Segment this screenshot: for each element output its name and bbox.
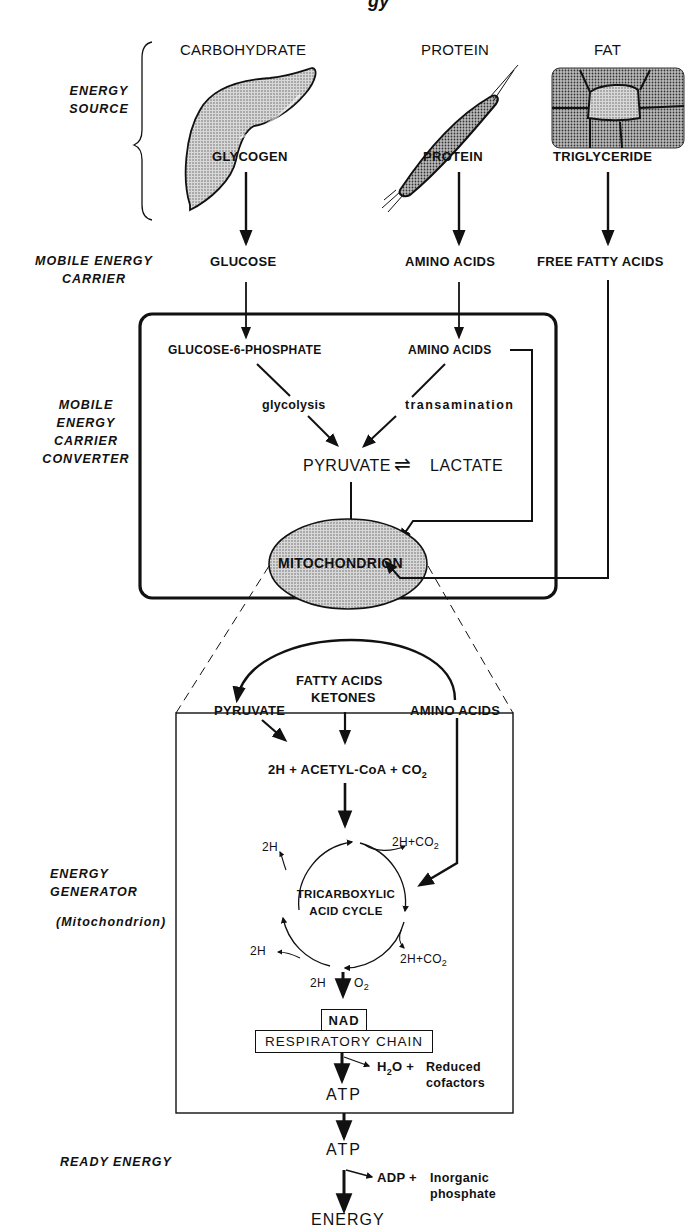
arrow-pyruvate-acetylcoa [262,720,285,740]
arrow-transamination-pyruvate [364,416,396,446]
arrow-chain-h2o [344,1057,369,1066]
gen-label-atp: ATP [326,1086,362,1104]
gen-label-pyruvate: PYRUVATE [214,703,285,718]
transamination-line [412,364,445,397]
label-pyruvate: PYRUVATE [303,457,391,475]
respiratory-chain-box: RESPIRATORY CHAIN [255,1030,433,1053]
source-carbohydrate: CARBOHYDRATE [180,41,306,58]
label-2h-co2-top-right: 2H+CO2 [392,835,439,851]
fat-illustration [552,68,684,148]
gen-label-amino-acids: AMINO ACIDS [410,703,500,718]
branch-co2-bottom [400,930,404,948]
stage-ready-energy: READY ENERGY [60,1153,190,1171]
label-lactate: LACTATE [430,457,503,475]
source-protein: PROTEIN [421,41,489,58]
branch-2h-top [280,852,286,870]
label-transamination: transamination [405,398,514,412]
store-protein: PROTEIN [423,149,483,164]
stage-generator-note: (Mitochondrion) [56,913,176,931]
label-glucose-6-phosphate: GLUCOSE-6-PHOSPHATE [168,343,322,357]
label-2h-bottom-left: 2H [250,944,266,958]
label-glycolysis: glycolysis [262,398,325,412]
brace-icon [134,42,152,220]
carrier-glucose: GLUCOSE [210,254,276,269]
label-2h-top-left: 2H [262,840,278,854]
nad-box: NAD [321,1009,367,1032]
stage-energy-source: ENERGY SOURCE [54,82,144,118]
zoom-line-left [176,566,269,713]
arrow-glycolysis-pyruvate [308,416,337,445]
label-reduced-cofactors: Reduced cofactors [426,1059,485,1091]
label-amino-acids-converter: AMINO ACIDS [408,343,492,357]
label-acetyl-coa: 2H + ACETYL-CoA + CO2 [268,762,427,780]
stage-converter: MOBILE ENERGY CARRIER CONVERTER [36,396,136,468]
liver-illustration [186,68,316,210]
equilibrium-arrows-icon: ⇌ [394,452,412,476]
arrow-aminoacids-mito [400,350,532,540]
stage-energy-generator: ENERGY GENERATOR [50,865,150,901]
carrier-amino-acids: AMINO ACIDS [405,254,495,269]
store-triglyceride: TRIGLYCERIDE [553,149,652,164]
label-mitochondrion: MITOCHONDRION [278,555,403,571]
arrow-atp-adp [346,1170,372,1177]
label-tca-cycle: TRICARBOXYLIC ACID CYCLE [291,886,401,920]
ready-label-atp: ATP [326,1141,362,1159]
source-fat: FAT [594,41,621,58]
label-adp: ADP + [377,1170,417,1185]
label-o2: O2 [354,976,369,992]
gen-label-ketones: KETONES [311,690,376,705]
stage-mobile-energy-carrier: MOBILE ENERGY CARRIER [24,252,164,288]
branch-2h-bottom [278,952,300,958]
label-h2o: H2O + [377,1059,414,1077]
label-energy: ENERGY [311,1211,385,1229]
glycolysis-line [257,364,290,396]
arrow-ffa-mito [386,280,608,578]
label-2h-bottom: 2H [310,976,326,990]
zoom-line-right [428,566,513,713]
carrier-free-fatty-acids: FREE FATTY ACIDS [537,254,664,269]
muscle-illustration [382,65,518,212]
store-glycogen: GLYCOGEN [212,149,288,164]
arrow-aminoacids-cycle [420,718,457,885]
label-2h-co2-bottom-right: 2H+CO2 [400,952,447,968]
label-inorganic-phosphate: Inorganic phosphate [430,1170,496,1202]
gen-label-fatty-acids: FATTY ACIDS [296,673,383,688]
